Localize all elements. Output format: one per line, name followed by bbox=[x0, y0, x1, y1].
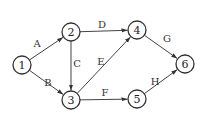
edge-label: F bbox=[102, 87, 109, 98]
node-3: 3 bbox=[62, 91, 80, 109]
edge-h bbox=[144, 70, 177, 94]
arrow-line bbox=[80, 30, 128, 31]
node-label: 5 bbox=[134, 93, 141, 106]
edge-label: C bbox=[73, 58, 81, 69]
node-4: 4 bbox=[128, 21, 146, 39]
edge-label: E bbox=[97, 56, 104, 67]
arrow-line bbox=[144, 70, 177, 94]
edge-labels: ABCDEFGH bbox=[32, 19, 171, 98]
node-label: 4 bbox=[134, 24, 141, 37]
edge-label: H bbox=[151, 76, 160, 87]
edge-label: B bbox=[44, 77, 51, 88]
network-diagram: ABCDEFGH 123456 bbox=[0, 0, 206, 123]
node-1: 1 bbox=[13, 56, 31, 74]
arrow-line bbox=[80, 99, 128, 100]
node-label: 1 bbox=[19, 59, 26, 72]
edge-g bbox=[144, 35, 177, 58]
node-label: 6 bbox=[182, 58, 189, 71]
edge-label: G bbox=[163, 33, 171, 44]
edge-label: D bbox=[98, 19, 106, 30]
node-2: 2 bbox=[62, 23, 80, 41]
node-label: 2 bbox=[68, 26, 75, 39]
arrow-line bbox=[144, 35, 177, 58]
edge-label: A bbox=[32, 38, 41, 49]
node-6: 6 bbox=[176, 55, 194, 73]
edge-f bbox=[80, 99, 128, 100]
node-5: 5 bbox=[128, 90, 146, 108]
edge-d bbox=[80, 30, 128, 31]
node-label: 3 bbox=[68, 94, 75, 107]
